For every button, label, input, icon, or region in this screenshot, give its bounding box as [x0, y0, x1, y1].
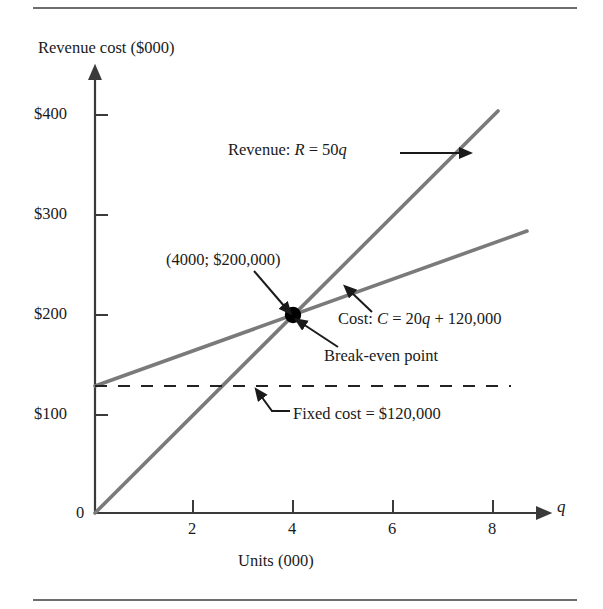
x-tick-label-6: 6: [388, 521, 396, 538]
break-even-chart-plot: [0, 0, 603, 609]
cost-annotation-equals: = 20: [388, 309, 422, 328]
y-tick-label-200: $200: [34, 306, 67, 323]
cost-annotation-prefix: Cost:: [338, 309, 377, 328]
x-tick-label-2: 2: [188, 521, 196, 538]
cost-annotation-variable: C: [377, 309, 388, 328]
x-axis-variable-label: q: [557, 498, 566, 515]
breakeven-coord-arrow: [254, 271, 285, 307]
cost-equation-annotation: Cost: C = 20q + 120,000: [338, 311, 502, 328]
revenue-annotation-equals: = 50: [305, 140, 339, 159]
origin-label: 0: [76, 505, 84, 522]
fixed-cost-label-leader: [261, 396, 290, 411]
x-tick-label-4: 4: [288, 521, 296, 538]
break-even-point-annotation: Break-even point: [324, 348, 438, 365]
break-even-point-marker: [285, 307, 301, 323]
y-tick-label-300: $300: [34, 206, 67, 223]
fixed-cost-annotation: Fixed cost = $120,000: [293, 406, 441, 423]
y-tick-label-400: $400: [34, 106, 67, 123]
revenue-annotation-prefix: Revenue:: [228, 140, 294, 159]
x-axis-title: Units (000): [238, 553, 314, 570]
break-even-coordinate-annotation: (4000; $200,000): [166, 252, 281, 269]
y-axis-title: Revenue cost ($000): [38, 40, 175, 57]
breakeven-label-arrow: [303, 324, 338, 347]
figure-page: Revenue cost ($000) Units (000) $400 $30…: [0, 0, 603, 609]
revenue-annotation-q: q: [339, 140, 347, 159]
revenue-annotation-variable: R: [294, 140, 304, 159]
revenue-equation-annotation: Revenue: R = 50q: [228, 142, 347, 159]
y-tick-label-100: $100: [34, 406, 67, 423]
cost-annotation-tail: + 120,000: [430, 309, 501, 328]
x-tick-label-8: 8: [488, 521, 496, 538]
